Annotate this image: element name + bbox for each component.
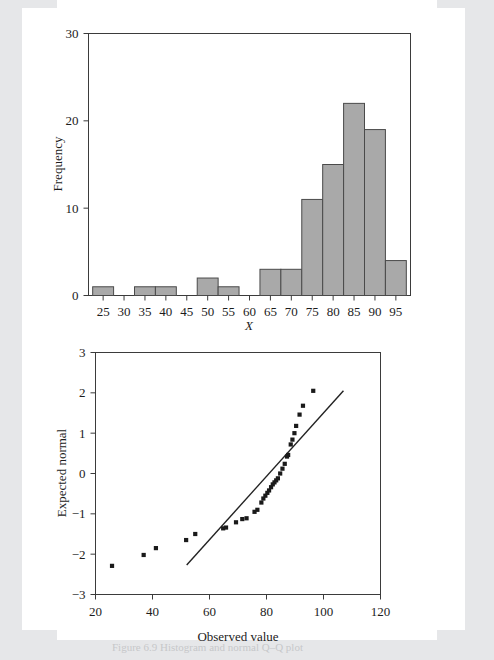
qq-plot-frame [96, 353, 381, 595]
histogram-y-axis-title: Frequency [50, 136, 65, 191]
qq-data-point [297, 413, 301, 417]
histogram-x-tick-label: 50 [201, 304, 214, 319]
qq-x-tick-label: 100 [314, 604, 334, 619]
histogram-x-tick-label: 95 [389, 304, 402, 319]
histogram-bar [281, 269, 302, 295]
qq-x-tick-label: 60 [203, 604, 216, 619]
histogram-x-axis-title: X [244, 318, 254, 333]
histogram-bar [302, 199, 323, 295]
qq-data-point [255, 508, 259, 512]
histogram-x-tick-label: 30 [118, 304, 131, 319]
histogram-panel: 253035404550556065707580859095 0102030 X… [0, 0, 494, 340]
histogram-bar [155, 287, 176, 296]
histogram-y-tick-label: 20 [66, 113, 79, 128]
qq-x-tick-label: 20 [89, 604, 102, 619]
caption-remnant: Figure 6.9 Histogram and normal Q–Q plot [112, 641, 442, 655]
qq-data-point [289, 442, 293, 446]
histogram-x-tick-label: 75 [306, 304, 319, 319]
qq-data-point [240, 517, 244, 521]
histogram-x-tick-label: 55 [222, 304, 235, 319]
qq-data-point [280, 467, 284, 471]
qq-data-point [283, 462, 287, 466]
qq-data-points [110, 389, 315, 568]
histogram-bar [135, 287, 156, 296]
qq-data-point [276, 476, 280, 480]
qq-data-point [244, 516, 248, 520]
histogram-chart: 253035404550556065707580859095 0102030 X… [0, 0, 494, 340]
histogram-bar [365, 130, 386, 296]
histogram-x-tick-label: 25 [97, 304, 110, 319]
histogram-x-tick-label: 70 [285, 304, 298, 319]
qq-y-tick-label: 2 [79, 385, 86, 400]
qq-y-ticks: −3−2−10123 [72, 345, 96, 602]
histogram-bar [218, 287, 239, 296]
qq-y-axis-title: Expected normal [54, 428, 69, 517]
qq-plot-chart: 20406080100120 −3−2−10123 Observed value… [0, 340, 494, 660]
histogram-x-ticks: 253035404550556065707580859095 [97, 296, 403, 319]
qq-y-tick-label: −1 [72, 506, 86, 521]
qq-data-point [259, 500, 263, 504]
qq-y-tick-label: −2 [72, 547, 86, 562]
qq-data-point [234, 520, 238, 524]
qq-data-point [224, 525, 228, 529]
histogram-x-tick-label: 85 [348, 304, 361, 319]
qq-data-point [184, 538, 188, 542]
qq-data-point [110, 564, 114, 568]
histogram-x-tick-label: 60 [243, 304, 256, 319]
histogram-y-tick-label: 10 [66, 201, 79, 216]
histogram-y-tick-label: 30 [66, 26, 79, 41]
histogram-x-tick-label: 40 [159, 304, 172, 319]
qq-data-point [278, 471, 282, 475]
histogram-y-ticks: 0102030 [66, 26, 89, 303]
qq-data-point [294, 424, 298, 428]
qq-data-point [154, 546, 158, 550]
qq-data-point [286, 453, 290, 457]
histogram-y-tick-label: 0 [72, 288, 79, 303]
histogram-bar [323, 165, 344, 296]
qq-x-ticks: 20406080100120 [89, 595, 390, 619]
qq-data-point [193, 532, 197, 536]
histogram-x-tick-label: 80 [327, 304, 340, 319]
histogram-x-tick-label: 35 [138, 304, 151, 319]
qq-data-point [142, 553, 146, 557]
qq-x-tick-label: 80 [260, 604, 273, 619]
qq-data-point [301, 404, 305, 408]
histogram-x-tick-label: 65 [264, 304, 277, 319]
qq-data-point [290, 438, 294, 442]
qq-x-tick-label: 120 [371, 604, 391, 619]
qq-data-point [292, 431, 296, 435]
qq-x-tick-label: 40 [146, 604, 159, 619]
histogram-bar [385, 261, 406, 296]
qq-y-tick-label: 1 [79, 426, 86, 441]
histogram-bar [93, 287, 114, 296]
histogram-bar [260, 269, 281, 295]
qq-y-tick-label: 3 [79, 345, 86, 360]
qq-plot-panel: 20406080100120 −3−2−10123 Observed value… [0, 340, 494, 660]
qq-data-point [311, 389, 315, 393]
histogram-bar [344, 103, 365, 295]
histogram-bars [93, 103, 407, 295]
histogram-bar [197, 278, 218, 295]
histogram-x-tick-label: 45 [180, 304, 193, 319]
histogram-x-tick-label: 90 [368, 304, 381, 319]
qq-y-tick-label: 0 [79, 466, 86, 481]
qq-y-tick-label: −3 [72, 587, 86, 602]
qq-reference-line [187, 391, 344, 565]
